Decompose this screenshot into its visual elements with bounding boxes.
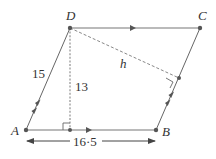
label-side-15: 15 <box>32 66 45 81</box>
parallelogram-diagram: A B C D 15 13 16·5 h <box>0 0 216 159</box>
label-D: D <box>65 8 76 23</box>
label-base-16-5: 16·5 <box>73 134 97 149</box>
point-foot-AB <box>68 128 72 132</box>
label-C: C <box>198 8 207 23</box>
point-A <box>24 128 28 132</box>
right-angle-marker-BC <box>166 78 173 88</box>
point-D <box>68 26 72 30</box>
point-foot-BC <box>177 76 181 80</box>
diagram-svg: A B C D 15 13 16·5 h <box>0 0 216 159</box>
point-C <box>198 26 202 30</box>
label-height-13: 13 <box>75 79 88 94</box>
label-A: A <box>10 123 19 138</box>
parallel-arrow-DC <box>130 25 136 31</box>
label-B: B <box>162 124 170 139</box>
parallel-arrow-AB <box>86 127 92 133</box>
point-B <box>154 128 158 132</box>
label-h: h <box>120 56 127 71</box>
